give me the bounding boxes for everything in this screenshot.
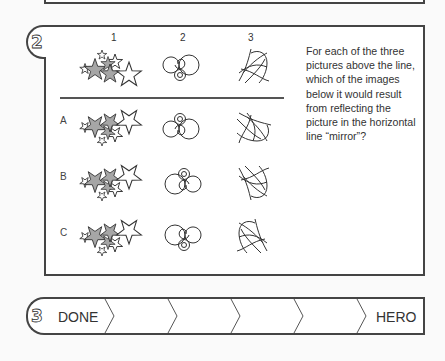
section-2-number-tab: 2 xyxy=(26,25,46,59)
row-label-b: B xyxy=(60,171,67,182)
star-cluster-original xyxy=(70,45,150,90)
curves-original xyxy=(228,45,278,90)
curves-option-a xyxy=(228,105,278,150)
question-text: For each of the three pictures above the… xyxy=(306,44,424,143)
mirror-line xyxy=(60,97,284,99)
previous-section-box xyxy=(44,0,425,4)
curves-option-b xyxy=(228,160,278,205)
curves-option-c xyxy=(228,215,278,260)
section-3-number-tab: 3 xyxy=(26,297,46,335)
spiral-original xyxy=(160,45,210,90)
spiral-option-a xyxy=(160,105,210,150)
column-label-2: 2 xyxy=(180,32,186,43)
row-label-a: A xyxy=(60,115,67,126)
spiral-option-c xyxy=(160,215,210,260)
progress-chevrons xyxy=(46,299,423,333)
section-3-number: 3 xyxy=(31,306,43,326)
progress-start-label: DONE xyxy=(58,309,98,325)
star-cluster-option-b xyxy=(70,160,150,205)
progress-end-label: HERO xyxy=(376,309,416,325)
section-2-number: 2 xyxy=(31,32,43,52)
column-label-3: 3 xyxy=(248,32,254,43)
row-label-c: C xyxy=(60,227,67,238)
progress-bar: DONE HERO xyxy=(44,297,425,335)
star-cluster-option-a xyxy=(70,105,150,150)
column-label-1: 1 xyxy=(111,32,117,43)
star-cluster-option-c xyxy=(70,215,150,260)
spiral-option-b xyxy=(160,160,210,205)
